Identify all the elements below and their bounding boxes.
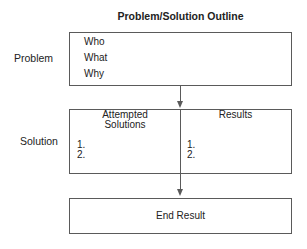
arrow-down-icon	[177, 101, 183, 108]
attempted-item-2: 2.	[77, 150, 85, 160]
results-column: Results 1. 2.	[180, 110, 291, 173]
arrow-down-icon	[177, 189, 183, 196]
end-result-box: End Result	[69, 198, 292, 234]
diagram-title: Problem/Solution Outline	[69, 10, 292, 22]
connector-line-1	[180, 86, 181, 102]
results-header: Results	[180, 109, 291, 120]
problem-item-who: Who	[84, 35, 105, 49]
solution-label: Solution	[20, 135, 58, 147]
attempted-header-line2: Solutions	[70, 119, 180, 130]
problem-item-why: Why	[84, 67, 104, 81]
end-result-label: End Result	[70, 209, 291, 223]
problem-item-what: What	[84, 51, 107, 65]
results-item-2: 2.	[187, 150, 195, 160]
column-divider-and-connector	[180, 109, 181, 191]
attempted-solutions-column: Attempted Solutions 1. 2.	[70, 110, 180, 173]
problem-label: Problem	[14, 52, 53, 64]
problem-box: Who What Why	[69, 32, 292, 86]
